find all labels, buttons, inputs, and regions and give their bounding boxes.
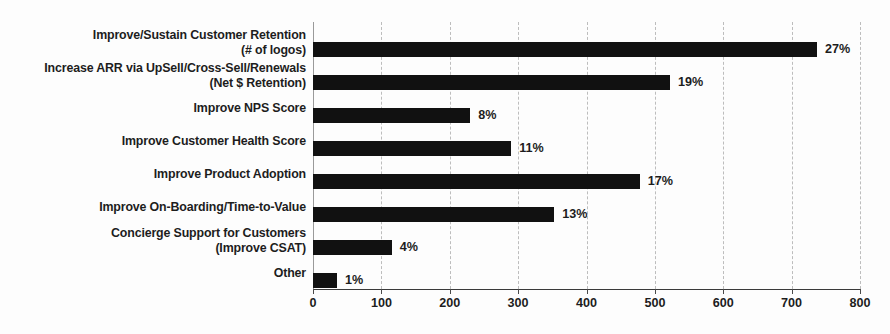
bar[interactable] [313,108,470,123]
category-label: Improve Customer Health Score [6,134,306,149]
bar[interactable] [313,240,392,255]
x-tick-label: 100 [371,296,392,310]
x-tick-label: 200 [439,296,460,310]
bar-data-label: 13% [562,207,587,222]
tick-700 [792,289,793,294]
x-axis-tick-labels: 0 100 200 300 400 500 600 700 800 [313,296,860,316]
bar[interactable] [313,207,554,222]
tick-600 [723,289,724,294]
x-tick-label: 700 [781,296,802,310]
bar-data-label: 1% [345,273,363,288]
tick-500 [655,289,656,294]
bar-data-label: 19% [678,75,703,90]
gridline-800 [860,22,861,289]
tick-100 [381,289,382,294]
tick-400 [587,289,588,294]
category-label: Concierge Support for Customers (Improve… [6,226,306,255]
bar[interactable] [313,141,511,156]
bar-data-label: 27% [825,42,850,57]
bar-chart: Improve/Sustain Customer Retention (# of… [0,0,890,334]
x-tick-label: 600 [713,296,734,310]
x-tick-label: 500 [644,296,665,310]
bar-data-label: 11% [519,141,544,156]
tick-200 [450,289,451,294]
category-label: Improve/Sustain Customer Retention (# of… [6,28,306,57]
x-tick-label: 0 [309,296,316,310]
bar-data-label: 4% [400,240,418,255]
tick-300 [518,289,519,294]
bar-data-label: 17% [648,174,673,189]
x-tick-label: 300 [508,296,529,310]
category-axis-labels: Improve/Sustain Customer Retention (# of… [0,22,306,290]
bar[interactable] [313,75,670,90]
tick-800 [860,289,861,294]
category-label: Other [6,266,306,281]
bar[interactable] [313,174,640,189]
category-label: Increase ARR via UpSell/Cross-Sell/Renew… [6,61,306,90]
plot-area: 27% 19% 8% 11% 17% 13% 4% 1% [313,22,860,290]
category-label: Improve On-Boarding/Time-to-Value [6,200,306,215]
x-tick-label: 400 [576,296,597,310]
bar[interactable] [313,273,337,288]
x-tick-label: 800 [849,296,870,310]
bar-series: 27% 19% 8% 11% 17% 13% 4% 1% [313,22,860,289]
tick-0 [313,289,314,294]
bar-data-label: 8% [478,108,496,123]
category-label: Improve NPS Score [6,101,306,116]
category-label: Improve Product Adoption [6,167,306,182]
bar[interactable] [313,42,817,57]
